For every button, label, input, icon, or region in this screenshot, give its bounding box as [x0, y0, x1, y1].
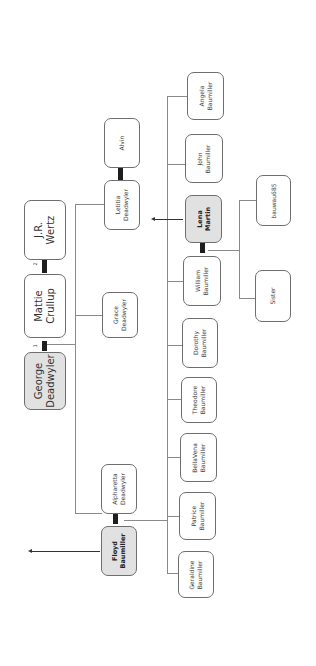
- person-name: BellaVena Baumiller: [191, 443, 207, 473]
- person-node-geraldine-baumiller[interactable]: Geraldine Baumiller: [178, 551, 214, 598]
- connector: [239, 200, 240, 299]
- connector: [239, 298, 256, 299]
- person-node-dorothy-baumiller[interactable]: Dorothy Baumiller: [182, 318, 218, 368]
- person-node-sister[interactable]: Sister: [255, 270, 291, 322]
- spouse-bar: [118, 168, 123, 180]
- connector: [167, 281, 183, 282]
- marriage-marker-1: 1: [32, 344, 38, 347]
- person-name: Letitia Deadwyler: [114, 189, 130, 221]
- person-node-lena-martin[interactable]: Lena Martin: [185, 195, 222, 243]
- person-node-bauwau685[interactable]: bauwau685: [256, 175, 291, 226]
- connector: [167, 457, 180, 458]
- person-name: Lena Martin: [196, 207, 212, 231]
- person-name: William Baumiller: [194, 267, 210, 296]
- person-name: Angela Baumiller: [198, 82, 214, 111]
- person-name: Floyd Baumiller: [111, 533, 127, 568]
- marriage-marker-2: 2: [32, 262, 38, 265]
- person-name: bauwau685: [270, 183, 278, 218]
- person-node-mattie-crullup[interactable]: Mattie Crullup: [24, 274, 66, 338]
- arrow-left-icon[interactable]: [154, 219, 183, 220]
- person-name: Sister: [269, 287, 277, 304]
- arrow-left-icon[interactable]: [31, 551, 100, 552]
- person-node-floyd-baumiller[interactable]: Floyd Baumiller: [101, 526, 137, 576]
- person-node-letitia-deadwyler[interactable]: Letitia Deadwyler: [104, 180, 140, 230]
- connector: [124, 520, 168, 521]
- person-node-angela-baumiller[interactable]: Angela Baumiller: [187, 72, 224, 120]
- person-name: Geraldine Baumiller: [188, 560, 204, 589]
- connector: [46, 344, 76, 345]
- person-name: Alvin: [118, 136, 126, 151]
- person-node-bellavena-baumiller[interactable]: BellaVena Baumiller: [180, 433, 217, 482]
- connector: [167, 345, 182, 346]
- person-name: George Deadwyler: [33, 354, 57, 407]
- person-node-george-deadwyler[interactable]: George Deadwyler: [24, 352, 66, 410]
- person-name: Mattie Crullup: [33, 288, 57, 324]
- person-name: Grace Deadwyler: [112, 299, 128, 331]
- connector: [239, 200, 256, 201]
- family-tree-diagram: 1 2 J.R. Wertz Mattie Crullup George Dea…: [0, 0, 316, 666]
- person-node-alpharetta-deadwyler[interactable]: Alpharetta Deadwyler: [101, 464, 137, 514]
- connector: [167, 516, 179, 517]
- person-node-theodore-baumiller[interactable]: Theodore Baumiller: [181, 377, 217, 423]
- person-name: Patrice Baumiller: [190, 502, 206, 531]
- connector: [167, 96, 187, 97]
- person-node-alvin[interactable]: Alvin: [104, 118, 140, 168]
- connector: [75, 204, 104, 205]
- connector: [208, 250, 240, 251]
- person-name: J.R. Wertz: [33, 216, 57, 245]
- connector: [167, 399, 181, 400]
- person-node-grace-deadwyler[interactable]: Grace Deadwyler: [102, 292, 138, 338]
- person-node-john-baumiller[interactable]: John Baumiller: [185, 134, 223, 183]
- spouse-bar: [113, 514, 118, 524]
- connector: [75, 204, 76, 514]
- connector: [167, 164, 185, 165]
- person-node-jr-wertz[interactable]: J.R. Wertz: [24, 200, 66, 260]
- person-name: John Baumiller: [196, 144, 212, 173]
- connector: [167, 96, 168, 574]
- spouse-bar: [42, 259, 47, 273]
- person-name: Alpharetta Deadwyler: [111, 473, 127, 505]
- connector: [75, 315, 102, 316]
- person-node-william-baumiller[interactable]: William Baumiller: [183, 256, 221, 306]
- connector: [167, 573, 178, 574]
- person-name: Dorothy Baumiller: [192, 329, 208, 358]
- connector: [75, 513, 102, 514]
- spouse-bar: [200, 243, 205, 253]
- person-node-patrice-baumiller[interactable]: Patrice Baumiller: [179, 492, 216, 540]
- spouse-bar: [42, 341, 47, 351]
- person-name: Theodore Baumiller: [191, 386, 207, 415]
